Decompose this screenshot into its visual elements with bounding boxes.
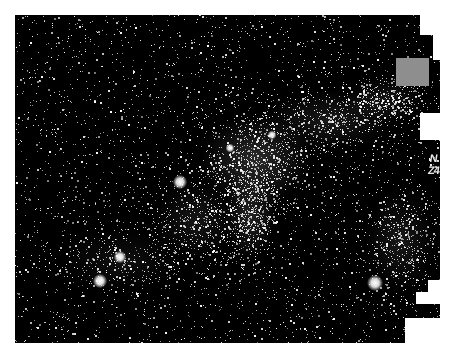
star-field-canvas — [0, 0, 450, 350]
star-field-photo: NZ4 — [0, 0, 450, 350]
gray-redaction-box — [396, 58, 429, 86]
